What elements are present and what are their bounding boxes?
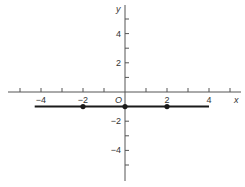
plot-canvas: −4−22442−2−4 x y O (0, 0, 245, 187)
data-point (80, 104, 85, 109)
y-tick-label: 2 (116, 58, 121, 68)
axes (8, 5, 241, 181)
x-tick-label: −4 (36, 95, 46, 105)
x-tick-label: 4 (206, 95, 211, 105)
data-point (164, 104, 169, 109)
x-tick-label: 2 (164, 95, 169, 105)
x-tick-label: −2 (78, 95, 88, 105)
y-axis-label: y (115, 4, 121, 14)
data-point (122, 104, 127, 109)
x-axis-label: x (233, 95, 239, 105)
y-tick-label: −2 (111, 116, 121, 126)
y-tick-label: 4 (116, 29, 121, 39)
origin-label: O (115, 95, 122, 105)
coordinate-plot: −4−22442−2−4 x y O (0, 0, 245, 187)
y-tick-label: −4 (111, 145, 121, 155)
